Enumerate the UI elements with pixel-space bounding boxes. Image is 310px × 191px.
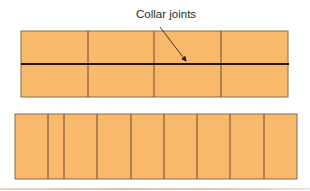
bottom-wall-body [15,114,297,179]
top-wall [21,31,289,97]
bottom-wall [15,114,297,179]
masonry-diagram [0,0,310,191]
bottom-divider [0,188,310,190]
collar-joints-label: Collar joints [136,8,196,20]
